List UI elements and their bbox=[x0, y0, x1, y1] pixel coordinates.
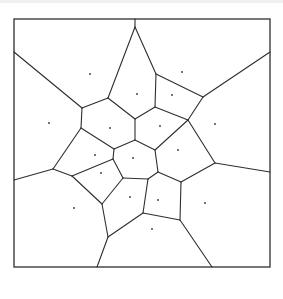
site-point bbox=[100, 172, 102, 174]
cell-edge bbox=[143, 179, 148, 213]
cell-edge bbox=[102, 204, 108, 237]
cell-edge bbox=[114, 140, 135, 149]
site-point bbox=[129, 196, 131, 198]
cell-edge bbox=[72, 159, 113, 176]
cell-edge bbox=[135, 140, 155, 150]
voronoi-canvas bbox=[0, 0, 283, 299]
cell-edge bbox=[180, 220, 212, 267]
site-point bbox=[177, 149, 179, 151]
cell-edge bbox=[155, 107, 188, 120]
cell-edge bbox=[108, 213, 143, 237]
site-point bbox=[151, 228, 153, 230]
cell-edge bbox=[155, 150, 158, 172]
site-point bbox=[89, 73, 91, 75]
cell-edge bbox=[143, 213, 180, 220]
cell-edge bbox=[81, 128, 114, 149]
cell-edge bbox=[148, 172, 158, 179]
cell-edge bbox=[135, 27, 156, 74]
cell-edge bbox=[155, 74, 156, 107]
cell-edge bbox=[108, 98, 135, 119]
site-points bbox=[48, 71, 216, 230]
cell-edge bbox=[97, 237, 108, 267]
cell-edge bbox=[108, 27, 135, 98]
site-point bbox=[109, 127, 111, 129]
site-point bbox=[157, 199, 159, 201]
cell-edge bbox=[188, 97, 203, 120]
cell-edge bbox=[123, 178, 148, 179]
site-point bbox=[214, 123, 216, 125]
site-point bbox=[159, 125, 161, 127]
cell-edge bbox=[102, 178, 123, 204]
cell-edge bbox=[215, 163, 270, 172]
cell-edge bbox=[72, 176, 102, 204]
site-point bbox=[136, 93, 138, 95]
cell-edge bbox=[188, 120, 215, 163]
cell-edge bbox=[53, 169, 72, 176]
cell-edge bbox=[156, 74, 203, 97]
site-point bbox=[73, 207, 75, 209]
site-point bbox=[94, 154, 96, 156]
cell-edge bbox=[14, 169, 53, 180]
cell-edge bbox=[135, 107, 155, 119]
cell-edge bbox=[155, 120, 188, 150]
cell-edge bbox=[81, 108, 82, 128]
cell-edge bbox=[14, 52, 82, 108]
site-point bbox=[171, 94, 173, 96]
cell-edge bbox=[53, 128, 81, 169]
cell-edge bbox=[203, 52, 270, 97]
cell-edge bbox=[113, 149, 114, 159]
site-point bbox=[204, 202, 206, 204]
voronoi-diagram bbox=[0, 0, 283, 299]
cell-edges bbox=[14, 19, 270, 267]
cell-edge bbox=[82, 98, 108, 108]
site-point bbox=[48, 122, 50, 124]
site-point bbox=[132, 157, 134, 159]
cell-edge bbox=[158, 172, 181, 182]
site-point bbox=[181, 71, 183, 73]
cell-edge bbox=[113, 159, 123, 178]
cell-edge bbox=[180, 182, 181, 220]
cell-edge bbox=[181, 163, 215, 182]
